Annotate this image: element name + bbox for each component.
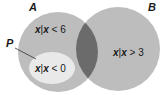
venn-diagram: A B P x|x < 6 x|x < 0 x|x > 3 (0, 0, 161, 95)
set-a-description: x|x < 6 (34, 24, 66, 35)
set-a-label: A (28, 1, 37, 13)
set-b-description: x|x > 3 (112, 47, 144, 58)
set-p-label: P (6, 37, 14, 49)
set-b-label: B (148, 1, 156, 13)
set-p-description: x|x < 0 (34, 63, 66, 74)
